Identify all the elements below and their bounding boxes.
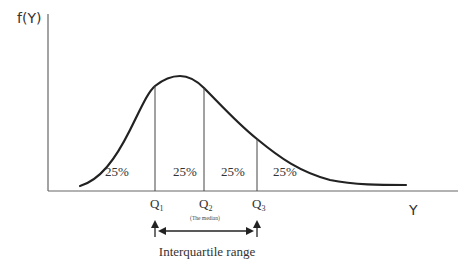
y-axis-label: f(Y) [17, 10, 41, 26]
svg-text:Q2: Q2 [199, 196, 212, 213]
q3-label: Q3 [252, 196, 265, 213]
q1-label: Q1 [150, 196, 163, 213]
q2-label: Q2 (The median) [190, 196, 220, 222]
quartile-diagram: f(Y) Y 25% 25% 25% 25% Q1 Q2 (The median… [0, 0, 470, 273]
region-label-3: 25% [221, 164, 245, 179]
iqr-label: Interquartile range [159, 244, 256, 259]
svg-text:Q3: Q3 [252, 196, 265, 213]
region-label-2: 25% [173, 164, 197, 179]
x-axis-label: Y [408, 202, 418, 218]
region-label-1: 25% [105, 164, 129, 179]
region-label-4: 25% [273, 164, 297, 179]
svg-text:Q1: Q1 [150, 196, 163, 213]
median-note: (The median) [190, 215, 220, 222]
